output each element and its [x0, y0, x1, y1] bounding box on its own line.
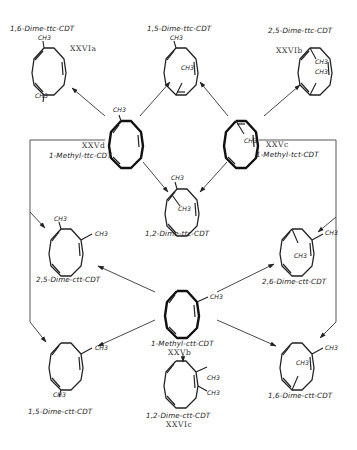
molecule-2-5-dime-ctt [49, 222, 92, 276]
substituent-label: CH3 [54, 215, 67, 222]
compound-name: 1,6-Dime-ttc-CDT [10, 24, 74, 33]
substituent-label: CH3 [294, 252, 307, 259]
compound-code: XXVd [82, 141, 105, 150]
compound-name: 2,5-Dime-ttc-CDT [268, 26, 332, 35]
substituent-label: CH3 [325, 229, 338, 236]
substituent-label: CH3 [315, 58, 328, 65]
reaction-scheme [0, 0, 357, 450]
compound-name: 1-Methyl-tct-CDT [256, 150, 319, 159]
compound-code: XXVc [266, 140, 289, 149]
compound-name: 1-Methyl-ttc-CDT [49, 151, 112, 160]
substituent-label: CH3 [325, 344, 338, 351]
compound-code: XXVIc [166, 420, 192, 429]
compound-name: 1,6-Dime-ctt-CDT [268, 391, 332, 400]
molecule-1-methyl-ttc [109, 115, 143, 168]
substituent-label: CH3 [207, 389, 220, 396]
substituent-label: CH3 [35, 92, 48, 99]
substituent-label: CH3 [178, 205, 191, 212]
compound-name: 1-Methyl-ctt-CDT [151, 339, 214, 348]
molecule-1-6-dime-ctt [280, 343, 323, 390]
reaction-arrows [72, 82, 300, 362]
substituent-label: CH3 [53, 391, 66, 398]
molecule-1-2-dime-ctt [164, 361, 207, 408]
substituent-label: CH3 [170, 34, 183, 41]
connector-lines [30, 140, 336, 342]
molecule-1-methyl-ctt [165, 291, 208, 338]
substituent-label: CH3 [296, 359, 309, 366]
compound-name: 1,2-Dime-ctt-CDT [146, 411, 210, 420]
compound-name: 2,6-Dime-ctt-CDT [262, 277, 326, 286]
substituent-label: CH3 [181, 64, 194, 71]
molecule-1-methyl-tct [224, 121, 258, 168]
compound-name: 1,5-Dime-ctt-CDT [28, 407, 92, 416]
compound-code: XXVb [168, 348, 191, 357]
substituent-label: CH3 [171, 174, 184, 181]
substituent-label: CH3 [207, 374, 220, 381]
substituent-label: CH3 [95, 344, 108, 351]
compound-code: XXVIa [70, 44, 97, 53]
substituent-label: CH3 [210, 293, 223, 300]
substituent-label: CH3 [315, 68, 328, 75]
compound-name: 1,5-Dime-ttc-CDT [147, 24, 211, 33]
compound-name: 2,5-Dime-ctt-CDT [36, 275, 100, 284]
molecule-1-5-dime-ctt [49, 343, 92, 397]
substituent-label: CH3 [95, 230, 108, 237]
substituent-label: CH3 [244, 137, 257, 144]
substituent-label: CH3 [113, 106, 126, 113]
compound-name: 1,2-Dime-ttc-CDT [145, 229, 209, 238]
compound-code: XXVIb [276, 46, 303, 55]
substituent-label: CH3 [38, 34, 51, 41]
